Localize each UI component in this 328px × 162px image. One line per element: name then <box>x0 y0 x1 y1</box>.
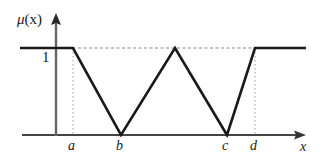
y-axis-label-mu: μ <box>17 11 25 27</box>
membership-curve <box>20 48 306 135</box>
figure-container: μ(x) 1 a b c d x <box>0 0 328 162</box>
membership-function-plot <box>0 0 328 162</box>
x-axis-label: x <box>300 140 306 154</box>
y-axis-label: μ(x) <box>17 12 42 27</box>
x-tick-label-b: b <box>116 139 123 153</box>
y-axis-label-arg: (x) <box>25 11 43 27</box>
y-tick-label-one: 1 <box>42 50 50 65</box>
x-tick-label-a: a <box>68 139 75 153</box>
x-tick-label-c: c <box>222 139 228 153</box>
x-tick-label-d: d <box>250 139 257 153</box>
